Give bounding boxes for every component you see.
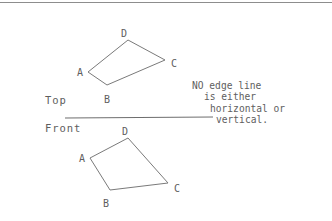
vertex-label-top-d: D (121, 28, 127, 39)
annotation-line-3: horizontal or (190, 103, 308, 114)
vertex-label-top-a: A (77, 67, 83, 78)
vertex-label-front-a: A (79, 153, 85, 164)
annotation-line-1: NO edge line (190, 80, 308, 91)
shape-front-view-quadrilateral (90, 138, 168, 190)
view-label-front: Front (45, 122, 81, 134)
vertex-label-front-c: C (174, 183, 180, 194)
vertex-label-top-c: C (171, 58, 177, 69)
annotation-line-2: is either (190, 91, 308, 102)
vertex-label-front-d: D (122, 126, 128, 137)
diagram-canvas: A B C D A B C D Top Front NO edge line i… (0, 0, 332, 221)
annotation-line-4: vertical. (190, 114, 308, 125)
shape-top-view-quadrilateral (88, 40, 165, 85)
vertex-label-top-b: B (104, 94, 110, 105)
annotation-note: NO edge line is either horizontal or ver… (190, 80, 308, 126)
view-label-top: Top (45, 94, 67, 106)
vertex-label-front-b: B (103, 198, 109, 209)
